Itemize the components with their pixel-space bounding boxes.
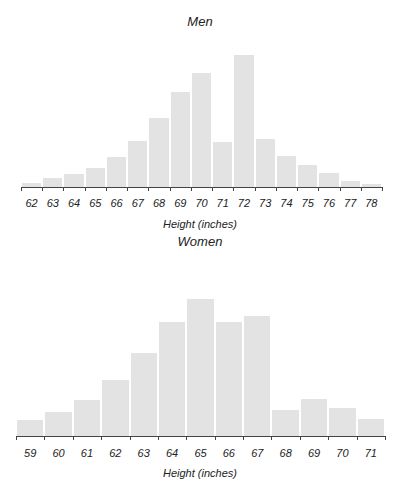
bar-75	[297, 165, 318, 187]
x-tick-label: 70	[330, 447, 354, 459]
bar-60	[44, 412, 72, 436]
bar-73	[255, 139, 276, 187]
x-tick-label: 67	[245, 447, 269, 459]
men-x-axis	[21, 187, 382, 188]
bar-69	[170, 92, 191, 187]
bar-69	[300, 399, 328, 436]
bar-70	[191, 73, 212, 187]
bar-66	[106, 157, 127, 187]
bar-67	[243, 316, 271, 436]
x-tick-mark	[271, 436, 272, 440]
bar-61	[73, 400, 101, 436]
bar-63	[42, 178, 63, 187]
x-tick-mark	[243, 436, 244, 440]
x-tick-mark	[16, 436, 17, 440]
x-tick-label: 69	[302, 447, 326, 459]
x-tick-mark	[276, 187, 277, 191]
x-tick-mark	[170, 187, 171, 191]
bar-71	[212, 142, 233, 187]
x-tick-mark	[130, 436, 131, 440]
bar-59	[16, 420, 44, 436]
women-x-axis-label: Height (inches)	[0, 467, 400, 479]
x-tick-mark	[297, 187, 298, 191]
x-tick-mark	[357, 436, 358, 440]
bar-64	[63, 174, 84, 187]
x-tick-label: 64	[160, 447, 184, 459]
x-tick-label: 65	[189, 447, 213, 459]
women-chart-title: Women	[0, 234, 400, 249]
bar-65	[186, 299, 214, 436]
x-tick-mark	[85, 187, 86, 191]
bar-70	[328, 408, 356, 436]
bar-63	[130, 353, 158, 436]
x-tick-mark	[101, 436, 102, 440]
x-tick-mark	[63, 187, 64, 191]
x-tick-mark	[255, 187, 256, 191]
x-tick-mark	[191, 187, 192, 191]
x-tick-mark	[361, 187, 362, 191]
x-tick-label: 61	[75, 447, 99, 459]
men-x-axis-label: Height (inches)	[0, 218, 400, 230]
x-tick-label: 78	[359, 197, 383, 209]
bar-74	[276, 156, 297, 187]
bar-68	[271, 410, 299, 436]
x-tick-mark	[127, 187, 128, 191]
bar-76	[318, 173, 339, 187]
x-tick-mark	[385, 436, 386, 440]
x-tick-mark	[73, 436, 74, 440]
x-tick-label: 63	[132, 447, 156, 459]
bar-68	[148, 118, 169, 187]
bar-71	[357, 419, 385, 436]
women-histogram	[16, 290, 385, 436]
x-tick-label: 59	[18, 447, 42, 459]
x-tick-mark	[340, 187, 341, 191]
x-tick-mark	[300, 436, 301, 440]
bar-66	[215, 322, 243, 436]
x-tick-label: 66	[217, 447, 241, 459]
x-tick-mark	[21, 187, 22, 191]
x-tick-mark	[212, 187, 213, 191]
x-tick-label: 60	[47, 447, 71, 459]
bar-62	[101, 380, 129, 436]
x-tick-label: 71	[359, 447, 383, 459]
x-tick-mark	[318, 187, 319, 191]
women-x-axis	[16, 436, 385, 437]
men-chart-title: Men	[0, 14, 400, 29]
men-histogram	[21, 40, 382, 187]
x-tick-mark	[44, 436, 45, 440]
x-tick-label: 62	[103, 447, 127, 459]
x-tick-mark	[233, 187, 234, 191]
x-tick-mark	[148, 187, 149, 191]
x-tick-mark	[215, 436, 216, 440]
x-tick-label: 68	[274, 447, 298, 459]
x-tick-mark	[382, 187, 383, 191]
x-tick-mark	[158, 436, 159, 440]
bar-64	[158, 322, 186, 436]
bar-65	[85, 168, 106, 187]
x-tick-mark	[328, 436, 329, 440]
x-tick-mark	[106, 187, 107, 191]
x-tick-mark	[186, 436, 187, 440]
bar-67	[127, 141, 148, 187]
bar-72	[233, 55, 254, 187]
x-tick-mark	[42, 187, 43, 191]
